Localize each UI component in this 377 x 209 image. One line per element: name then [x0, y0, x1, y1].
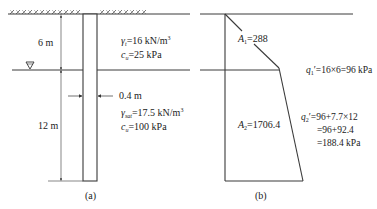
layer1-unit-weight: γt=16 kN/m3	[121, 35, 171, 47]
dimension-label-12m: 12 m	[38, 120, 59, 131]
q2-label-line2: =96+92.4	[317, 125, 354, 135]
dimension-tick-bottom	[60, 178, 62, 180]
layer1-cohesion: cu=25 kPa	[121, 49, 162, 61]
dimension-tick-mid2	[60, 71, 62, 73]
area2-label: A2=1706.4	[237, 119, 280, 131]
caption-b: (b)	[255, 190, 267, 202]
dimension-label-6m: 6 m	[38, 37, 54, 48]
sheet-pile-wall	[83, 14, 97, 181]
pressure-diagonal-upper-a	[225, 14, 242, 31]
water-table-icon	[26, 62, 34, 69]
ground-hatch-right	[98, 10, 148, 14]
diagram-canvas: 6 m 12 m 0.4 m γt=16 kN/m3 cu=25 kPa γsa…	[0, 0, 377, 209]
figure-a: 6 m 12 m 0.4 m γt=16 kN/m3 cu=25 kPa γsa…	[8, 10, 190, 202]
pressure-diagonal-upper-b	[254, 44, 279, 68]
dimension-tick-top	[60, 16, 62, 18]
q1-label: q1′=16×6=96 kPa	[306, 65, 373, 76]
ground-hatch-left	[10, 10, 82, 14]
wall-width-label: 0.4 m	[119, 90, 142, 101]
layer2-cohesion: cu=100 kPa	[121, 121, 167, 133]
area1-label: A1=288	[237, 33, 268, 45]
pressure-diagonal-lower	[279, 68, 303, 181]
figure-b: A1=288 A2=1706.4 q1′=16×6=96 kPa q2′=96+…	[200, 14, 373, 202]
layer2-unit-weight: γsat=17.5 kN/m3	[121, 107, 183, 119]
caption-a: (a)	[85, 190, 96, 202]
q2-label-line3: =188.4 kPa	[317, 138, 361, 148]
q2-label-line1: q2′=96+7.7×12	[301, 112, 358, 123]
dimension-tick-mid	[60, 67, 62, 69]
